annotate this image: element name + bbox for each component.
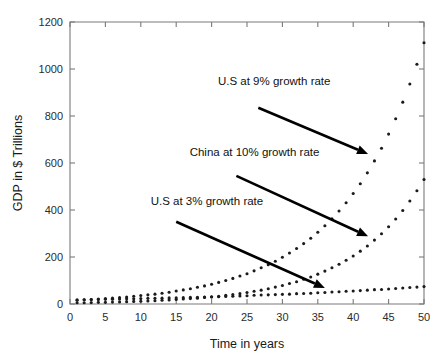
data-point: [83, 298, 86, 301]
data-point: [295, 247, 298, 250]
data-point: [394, 287, 397, 290]
data-point: [118, 300, 121, 303]
data-point: [281, 284, 284, 287]
data-point: [125, 300, 128, 303]
data-point: [182, 296, 185, 299]
data-point: [337, 209, 340, 212]
data-point: [288, 293, 291, 296]
data-point: [260, 266, 263, 269]
data-point: [196, 296, 199, 299]
data-point: [316, 273, 319, 276]
data-point: [132, 297, 135, 300]
annot-us-3-label: U.S at 3% growth rate: [151, 195, 264, 207]
data-point: [359, 289, 362, 292]
data-point: [274, 293, 277, 296]
data-point: [189, 287, 192, 290]
data-point: [387, 287, 390, 290]
x-tick-label-10: 10: [135, 311, 147, 323]
data-point: [316, 291, 319, 294]
data-point: [146, 293, 149, 296]
data-point: [210, 283, 213, 286]
x-tick-label-20: 20: [205, 311, 217, 323]
data-point: [288, 282, 291, 285]
y-tick-label-600: 600: [45, 157, 63, 169]
data-point: [90, 298, 93, 301]
data-point: [359, 250, 362, 253]
data-point: [125, 297, 128, 300]
data-point: [217, 281, 220, 284]
data-point: [373, 239, 376, 242]
data-point: [245, 291, 248, 294]
data-point: [76, 298, 79, 301]
data-point: [366, 244, 369, 247]
data-point: [238, 274, 241, 277]
data-point: [422, 41, 425, 44]
data-point: [345, 290, 348, 293]
data-point: [153, 297, 156, 300]
data-point: [337, 263, 340, 266]
data-point: [224, 295, 227, 298]
data-point: [288, 251, 291, 254]
data-point: [401, 101, 404, 104]
data-point: [422, 178, 425, 181]
y-tick-label-1200: 1200: [39, 16, 63, 28]
data-point: [253, 269, 256, 272]
x-tick-label-35: 35: [312, 311, 324, 323]
data-point: [196, 286, 199, 289]
data-point: [111, 301, 114, 304]
data-point: [281, 293, 284, 296]
data-point: [323, 291, 326, 294]
data-point: [104, 301, 107, 304]
data-point: [330, 290, 333, 293]
data-point: [168, 296, 171, 299]
data-point: [238, 294, 241, 297]
data-point: [352, 255, 355, 258]
data-point: [260, 289, 263, 292]
data-point: [111, 298, 114, 301]
data-point: [274, 286, 277, 289]
annot-china-10-label: China at 10% growth rate: [190, 146, 320, 158]
data-point: [231, 277, 234, 280]
data-point: [118, 298, 121, 301]
data-point: [97, 301, 100, 304]
data-point: [373, 288, 376, 291]
x-tick-label-30: 30: [276, 311, 288, 323]
data-point: [422, 285, 425, 288]
x-tick-label-45: 45: [382, 311, 394, 323]
data-point: [295, 280, 298, 283]
data-point: [394, 217, 397, 220]
data-point: [345, 201, 348, 204]
data-point: [309, 292, 312, 295]
data-point: [415, 63, 418, 66]
data-point: [175, 296, 178, 299]
data-point: [281, 256, 284, 259]
x-tick-label-25: 25: [241, 311, 253, 323]
data-point: [394, 117, 397, 120]
annot-us-9-label: U.S at 9% growth rate: [218, 75, 330, 87]
chart-figure: 05101520253035404550 0200400600800100012…: [0, 0, 445, 360]
data-point: [83, 301, 86, 304]
data-point: [408, 82, 411, 85]
data-point: [408, 286, 411, 289]
data-point: [203, 284, 206, 287]
data-point: [309, 275, 312, 278]
data-point: [267, 293, 270, 296]
data-point: [168, 291, 171, 294]
data-point: [245, 294, 248, 297]
y-tick-label-0: 0: [57, 298, 63, 310]
data-point: [366, 171, 369, 174]
data-point: [302, 292, 305, 295]
data-point: [380, 288, 383, 291]
data-point: [90, 301, 93, 304]
data-point: [401, 286, 404, 289]
data-point: [359, 182, 362, 185]
x-axis-title: Time in years: [210, 337, 285, 351]
data-point: [160, 297, 163, 300]
data-point: [175, 290, 178, 293]
data-point: [366, 289, 369, 292]
x-tick-label-5: 5: [102, 311, 108, 323]
data-point: [189, 296, 192, 299]
data-point: [309, 237, 312, 240]
data-point: [260, 294, 263, 297]
data-point: [139, 294, 142, 297]
